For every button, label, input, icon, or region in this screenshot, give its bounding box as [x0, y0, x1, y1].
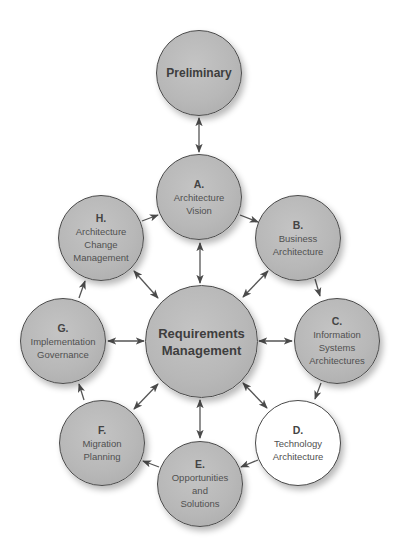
arrow-d-e: [241, 460, 258, 467]
node-letter: F.: [98, 424, 106, 437]
arrow-a-b: [240, 215, 258, 222]
node-letter: D.: [293, 424, 304, 437]
node-label: Preliminary: [166, 65, 231, 81]
node-b-business-architecture: B. Business Architecture: [255, 195, 341, 281]
node-a-architecture-vision: A. Architecture Vision: [156, 154, 242, 240]
node-letter: A.: [194, 178, 205, 191]
node-label: Migration Planning: [82, 437, 121, 463]
node-requirements-management: Requirements Management: [145, 285, 258, 398]
node-f-migration-planning: F. Migration Planning: [59, 400, 145, 486]
arrow-req-d: [243, 383, 267, 408]
arrow-e-f: [143, 461, 159, 467]
arrow-req-b: [243, 271, 268, 297]
node-d-technology-architecture: D. Technology Architecture: [255, 400, 341, 486]
node-g-implementation-governance: G. Implementation Governance: [20, 298, 106, 384]
arrow-h-a: [142, 215, 158, 221]
node-letter: H.: [96, 212, 107, 225]
node-e-opportunities-and-solutions: E. Opportunities and Solutions: [157, 441, 243, 527]
arrow-req-h: [134, 271, 158, 298]
node-letter: B.: [293, 219, 304, 232]
node-label: Requirements Management: [158, 325, 245, 359]
arrow-f-g: [79, 384, 84, 400]
node-label: Information Systems Architectures: [309, 328, 364, 367]
adm-cycle-diagram: Preliminary A. Architecture Vision H. Ar…: [0, 0, 399, 559]
arrow-req-f: [134, 384, 158, 409]
node-label: Business Architecture: [273, 232, 324, 258]
node-label: Architecture Change Management: [73, 225, 128, 264]
node-label: Technology Architecture: [273, 437, 324, 463]
node-label: Opportunities and Solutions: [172, 471, 229, 510]
node-letter: G.: [57, 322, 68, 335]
arrow-g-h: [79, 281, 85, 298]
node-h-architecture-change-management: H. Architecture Change Management: [58, 195, 144, 281]
node-preliminary: Preliminary: [156, 30, 242, 116]
node-label: Architecture Vision: [174, 191, 225, 217]
node-letter: E.: [195, 458, 205, 471]
node-letter: C.: [332, 315, 343, 328]
arrow-b-c: [315, 279, 320, 296]
node-c-information-systems-architectures: C. Information Systems Architectures: [294, 298, 380, 384]
arrow-c-d: [315, 383, 321, 399]
node-label: Implementation Governance: [31, 335, 96, 361]
